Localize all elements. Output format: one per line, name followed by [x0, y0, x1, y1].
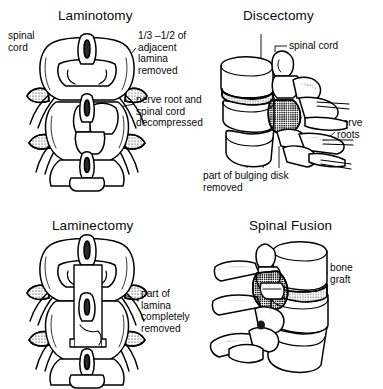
panel-laminectomy: Laminectomy part of lamina completely re… — [0, 197, 195, 389]
panel-title-laminotomy: Laminotomy — [58, 8, 133, 23]
panel-title-laminectomy: Laminectomy — [52, 218, 133, 233]
panel-laminotomy: Laminotomy spinal cord 1/3 –1/2 of adjac… — [0, 0, 195, 197]
panel-title-spinal-fusion: Spinal Fusion — [249, 218, 332, 233]
label-bulging-disk: part of bulging disk removed — [203, 170, 289, 193]
panel-spinal-fusion: Spinal Fusion bone graft — [195, 197, 383, 389]
spinal-surgery-figure: Laminotomy spinal cord 1/3 –1/2 of adjac… — [0, 0, 383, 389]
art-laminotomy-vertebrae — [26, 32, 148, 192]
art-spinal-fusion-vertebrae — [211, 239, 336, 379]
art-laminectomy-vertebrae — [26, 239, 148, 384]
panel-discectomy: Discectomy spinal cord nerve roots part … — [195, 0, 383, 197]
panel-title-discectomy: Discectomy — [243, 8, 314, 23]
label-lamina-removed: part of lamina completely removed — [141, 288, 190, 334]
art-discectomy-vertebrae — [213, 48, 363, 173]
